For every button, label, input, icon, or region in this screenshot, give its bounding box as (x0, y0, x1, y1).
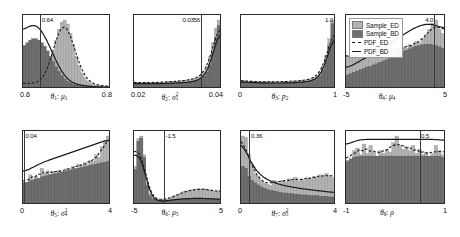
histogram-panel-theta1: 0.64 (22, 14, 110, 88)
panel-axes-frame: 0.0356 (133, 14, 221, 88)
xtick-min-theta7: 0 (238, 206, 242, 215)
panel-axes-frame: 0.64 (22, 14, 110, 88)
xaxis-label-theta4: θ4: μ4 (379, 92, 396, 101)
xaxis-label-theta6: θ6: μ5 (162, 208, 179, 217)
panel-axes-frame: -1.5 (133, 130, 221, 204)
xtick-max-theta2: 0.04 (207, 90, 223, 99)
panel-axes-frame: 0.36 (240, 130, 335, 204)
reference-vline-label-theta4: 4.0 (425, 16, 433, 23)
xtick-min-theta3: 0 (238, 90, 242, 99)
panel-axes-frame: 1.0 (240, 14, 335, 88)
histogram-panel-theta2: 0.0356 (133, 14, 221, 88)
sample-bd-bars (346, 156, 444, 203)
sample-bd-bars (134, 25, 220, 87)
xaxis-label-theta1: θ1: μ1 (51, 92, 68, 101)
legend-item-sample_ed[interactable]: Sample_ED (352, 21, 399, 30)
xtick-max-theta8: 1 (431, 206, 447, 215)
legend-swatch-icon (352, 30, 363, 38)
reference-vline-label-theta2: 0.0356 (182, 16, 200, 23)
reference-vline-label-theta7: 0.36 (251, 132, 262, 139)
xaxis-label-theta2: θ2: σ21 (162, 92, 179, 102)
legend-item-pdf_ed[interactable]: PDF_ED (352, 38, 399, 47)
xaxis-label-theta5: θ5: σ24 (51, 208, 68, 218)
xtick-max-theta6: 5 (207, 206, 223, 215)
xtick-max-theta7: 4 (321, 206, 337, 215)
histogram-panel-theta5: 0.04 (22, 130, 110, 204)
xtick-min-theta2: 0.02 (131, 90, 145, 99)
figure-canvas: 0.640.60.8θ1: μ10.03560.020.04θ2: σ211.0… (0, 0, 460, 237)
legend-swatch-icon (352, 21, 363, 29)
reference-vline-theta2 (201, 15, 202, 87)
reference-vline-label-theta3: 1.0 (325, 16, 333, 23)
legend: Sample_EDSample_BDPDF_EDPDF_BD (349, 18, 403, 58)
xaxis-label-theta8: θ8: ρ (380, 208, 394, 217)
reference-vline-label-theta8: 0.5 (421, 132, 429, 139)
xtick-min-theta1: 0.6 (20, 90, 30, 99)
reference-vline-theta5 (24, 131, 25, 203)
legend-item-label: Sample_BD (366, 30, 399, 37)
legend-item-pdf_bd[interactable]: PDF_BD (352, 47, 399, 56)
histogram-plot-area (134, 15, 220, 87)
histogram-panel-theta7: 0.36 (240, 130, 335, 204)
panel-axes-frame: 0.5 (345, 130, 445, 204)
reference-vline-label-theta5: 0.04 (25, 132, 36, 139)
xtick-min-theta6: -5 (131, 206, 138, 215)
legend-item-label: Sample_ED (366, 22, 399, 29)
histogram-panel-theta3: 1.0 (240, 14, 335, 88)
xaxis-label-theta7: θ7: σ25 (272, 208, 289, 218)
xtick-max-theta4: 5 (431, 90, 447, 99)
xtick-min-theta5: 0 (20, 206, 24, 215)
legend-item-sample_bd[interactable]: Sample_BD (352, 30, 399, 39)
reference-vline-label-theta1: 0.64 (42, 16, 53, 23)
xtick-max-theta3: 1 (321, 90, 337, 99)
reference-vline-theta3 (334, 15, 335, 87)
histogram-plot-area (23, 15, 109, 87)
reference-vline-theta4 (434, 15, 435, 87)
sample-bd-bars (23, 161, 109, 203)
panel-axes-frame: 0.04 (22, 130, 110, 204)
reference-vline-label-theta6: -1.5 (166, 132, 176, 139)
xtick-min-theta4: -5 (343, 90, 350, 99)
xtick-max-theta5: 4 (96, 206, 112, 215)
xtick-max-theta1: 0.8 (96, 90, 112, 99)
reference-vline-theta8 (420, 131, 421, 203)
xtick-min-theta8: -1 (343, 206, 350, 215)
histogram-plot-area (134, 131, 220, 203)
histogram-panel-theta6: -1.5 (133, 130, 221, 204)
reference-vline-theta1 (40, 15, 41, 87)
histogram-plot-area (346, 131, 444, 203)
reference-vline-theta7 (249, 131, 250, 203)
histogram-panel-theta8: 0.5 (345, 130, 445, 204)
histogram-plot-area (241, 15, 334, 87)
sample-bd-bars (241, 23, 334, 87)
histogram-plot-area (23, 131, 109, 203)
xaxis-label-theta3: θ3: p2 (272, 92, 289, 101)
legend-item-label: PDF_ED (364, 39, 388, 46)
reference-vline-theta6 (164, 131, 165, 203)
legend-item-label: PDF_BD (364, 48, 388, 55)
histogram-plot-area (241, 131, 334, 203)
